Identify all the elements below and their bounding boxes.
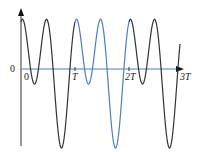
chart-canvas: 0 0 T 2T 3T: [0, 0, 202, 152]
y-origin-label: 0: [10, 63, 15, 74]
tick-label-2T: 2T: [125, 71, 137, 82]
waveform-curve: [21, 19, 180, 148]
x-origin-label: 0: [24, 71, 29, 82]
tick-label-3T: 3T: [179, 71, 192, 82]
tick-label-T: T: [72, 71, 79, 82]
y-axis-arrow-icon: [18, 8, 24, 16]
